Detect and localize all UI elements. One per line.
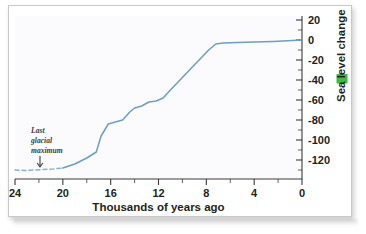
y-axis-title-part2: vel change (m)	[335, 6, 347, 69]
x-tick-label-0: 0	[299, 187, 305, 199]
x-tick-label-24: 24	[9, 187, 22, 199]
sea-level-chart: 24 20 16 12 8 4 0 Thousands of years ago	[9, 6, 353, 218]
x-tick-label-20: 20	[57, 187, 69, 199]
y-tick-label-neg40: -40	[308, 74, 324, 86]
y-tick-label-neg20: -20	[308, 54, 324, 66]
y-tick-label-neg80: -80	[308, 114, 324, 126]
x-axis-title: Thousands of years ago	[92, 201, 224, 213]
x-tick-label-12: 12	[152, 187, 164, 199]
y-tick-label-20: 20	[308, 14, 320, 26]
annotation-line-3: maximum	[31, 146, 63, 155]
annotation-line-2: glacial	[30, 136, 53, 145]
x-axis: 24 20 16 12 8 4 0 Thousands of years ago	[9, 179, 305, 213]
y-axis-title-highlighted-text: le	[335, 69, 347, 79]
figure-card: 24 20 16 12 8 4 0 Thousands of years ago	[8, 5, 352, 217]
y-tick-label-0: 0	[308, 34, 314, 46]
x-tick-label-4: 4	[251, 187, 258, 199]
y-tick-label-neg100: -100	[308, 134, 330, 146]
x-tick-label-8: 8	[203, 187, 209, 199]
y-axis-title: Sea level change (m)	[335, 6, 347, 102]
y-axis-title-part1: Sea	[335, 78, 347, 102]
y-axis-title-group: Sea level change (m)	[335, 6, 348, 102]
y-tick-label-neg120: -120	[308, 154, 330, 166]
y-axis: 20 0 -20 -40 -60 -80 -100 -120 Sea level…	[296, 6, 348, 179]
annotation-line-1: Last	[30, 126, 45, 135]
y-tick-label-neg60: -60	[308, 94, 324, 106]
figure-drop-shadow	[14, 219, 358, 227]
x-tick-label-16: 16	[105, 187, 117, 199]
